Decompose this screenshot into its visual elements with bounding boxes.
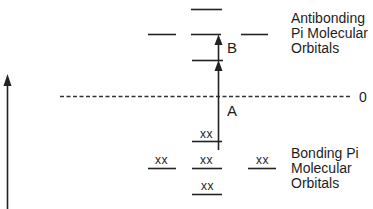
electron-pair: xx: [200, 153, 213, 167]
antibonding-label: Antibonding Pi Molecular Orbitals: [291, 10, 368, 56]
transition-arrow-b: [215, 35, 223, 61]
electron-pair: xx: [200, 127, 213, 141]
antibonding-label-line1: Antibonding: [291, 10, 365, 26]
mo-diagram: 0 B A xx xx xx xx xx Antibonding Pi Mole…: [0, 0, 373, 209]
electron-pair: xx: [256, 153, 269, 167]
transition-label-a: A: [227, 102, 237, 119]
electron-pair: xx: [155, 153, 168, 167]
antibonding-label-line3: Orbitals: [291, 40, 339, 56]
electron-pair: xx: [201, 179, 214, 193]
bonding-label-line2: Molecular: [291, 160, 352, 176]
bonding-label-line3: Orbitals: [291, 175, 339, 191]
transition-label-b: B: [227, 39, 237, 56]
zero-label: 0: [359, 89, 367, 105]
bonding-label: Bonding Pi Molecular Orbitals: [291, 145, 359, 191]
transition-arrow-a: [215, 60, 223, 150]
antibonding-label-line2: Pi Molecular: [291, 25, 368, 41]
energy-axis-arrow: [4, 74, 12, 209]
bonding-label-line1: Bonding Pi: [291, 145, 359, 161]
